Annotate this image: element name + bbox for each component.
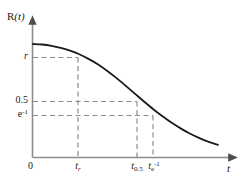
reliability-curve xyxy=(33,44,218,145)
y-axis-label: R(t) xyxy=(7,11,25,22)
x-tick-label-t-e-inverse: te-1 xyxy=(141,161,167,173)
x-tick-label-tr: tr xyxy=(68,161,88,173)
y-tick-label-half: 0.5 xyxy=(6,95,28,105)
y-tick-label-e-inverse: e-1 xyxy=(8,109,28,119)
y-tick-label-r: r xyxy=(12,51,28,61)
reliability-function-figure: R(t) t 0 r 0.5 e-1 tr t0.5 te-1 xyxy=(0,0,246,184)
origin-label: 0 xyxy=(28,161,33,171)
plot-canvas xyxy=(0,0,246,184)
x-axis-label: t xyxy=(227,163,230,174)
